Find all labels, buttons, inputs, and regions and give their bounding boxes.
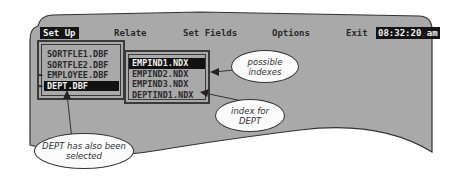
file-name: SORTFLE2.DBF: [47, 60, 108, 70]
menu-set-up[interactable]: Set Up: [40, 27, 79, 39]
callout-text: indexes: [248, 67, 281, 77]
menu-bar: Set Up Relate Set Fields Options Exit 08…: [40, 27, 440, 39]
index-name: EMPIND2.NDX: [132, 69, 188, 79]
callout-text: index for: [231, 106, 269, 116]
file-name: SORTFLE1.DBF: [47, 49, 108, 59]
callout-text: possible: [248, 57, 283, 67]
menu-exit[interactable]: Exit: [346, 27, 368, 39]
database-file-list: SORTFLE1.DBF SORTFLE2.DBF ►EMPLOYEE.DBF …: [37, 40, 125, 100]
menu-options[interactable]: Options: [272, 27, 310, 39]
file-sortfle2[interactable]: SORTFLE2.DBF: [44, 60, 119, 71]
selected-marker-icon: ►: [39, 81, 43, 92]
file-name: DEPT.DBF: [47, 81, 88, 91]
callout-index-for-dept: index for DEPT: [215, 99, 285, 132]
clock: 08:32:20 am: [376, 27, 440, 39]
callout-dept-selected: DEPT has also been selected: [34, 133, 134, 169]
file-employee[interactable]: ►EMPLOYEE.DBF: [44, 70, 119, 81]
index-name: EMPIND1.NDX: [132, 58, 188, 68]
file-sortfle1[interactable]: SORTFLE1.DBF: [44, 49, 119, 60]
menu-set-fields[interactable]: Set Fields: [183, 27, 237, 39]
callout-text: DEPT has also been: [42, 141, 126, 151]
callout-possible-indexes: possible indexes: [231, 50, 299, 83]
callout-text: DEPT: [239, 116, 261, 126]
index-name: DEPTIND1.NDX: [132, 90, 193, 100]
index-empind3[interactable]: EMPIND3.NDX: [129, 79, 205, 90]
menu-relate[interactable]: Relate: [114, 27, 147, 39]
file-dept[interactable]: ►DEPT.DBF: [44, 81, 119, 92]
index-empind2[interactable]: EMPIND2.NDX: [129, 69, 205, 80]
file-name: EMPLOYEE.DBF: [47, 70, 108, 80]
selected-marker-icon: ►: [39, 70, 43, 81]
callout-text: selected: [66, 151, 102, 161]
index-name: EMPIND3.NDX: [132, 79, 188, 89]
index-empind1[interactable]: EMPIND1.NDX: [129, 58, 205, 69]
index-deptind1[interactable]: DEPTIND1.NDX: [129, 90, 205, 101]
index-file-list: EMPIND1.NDX EMPIND2.NDX EMPIND3.NDX DEPT…: [124, 50, 210, 104]
